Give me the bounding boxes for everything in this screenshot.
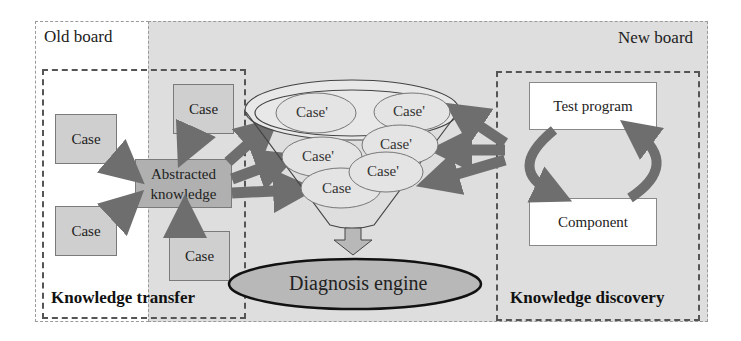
funnel-case-label: Case' xyxy=(393,103,425,120)
funnel-case-label: Case' xyxy=(302,148,334,165)
down-arrow-icon xyxy=(334,228,372,255)
funnel-case-label: Case' xyxy=(367,163,399,180)
diagnosis-engine-label: Diagnosis engine xyxy=(289,272,427,295)
funnel-case-label: Case' xyxy=(380,136,412,153)
funnel-case-label: Case' xyxy=(296,104,328,121)
arrow-icon xyxy=(114,128,196,231)
cycle-arrow-icon xyxy=(530,130,657,198)
arrow-icon xyxy=(437,115,505,180)
funnel-case-label: Case xyxy=(322,180,351,197)
